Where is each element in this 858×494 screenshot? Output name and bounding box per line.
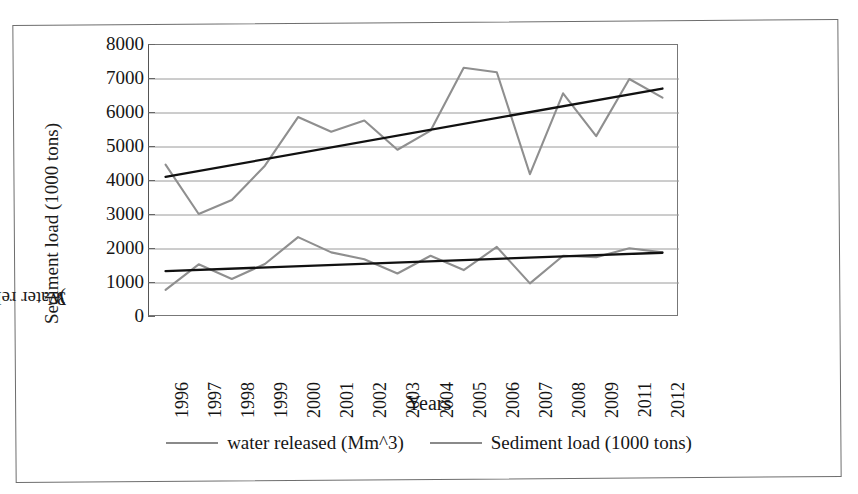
- legend-swatch-sediment-load: [430, 442, 482, 444]
- y-axis-tick-label: 6000: [78, 102, 144, 121]
- y-axis-tick-mark: [148, 248, 155, 249]
- y-axis-tick-mark: [148, 78, 155, 79]
- chart-page: Sediment load (1000 tons) Water released…: [0, 0, 858, 494]
- y-axis-title: Sediment load (1000 tons) Water released…: [22, 28, 78, 328]
- x-axis-title: Years: [0, 392, 858, 415]
- y-axis-tick-label: 1000: [78, 272, 144, 291]
- y-axis-tick-mark: [148, 112, 155, 113]
- legend-item-water-released[interactable]: water released (Mm^3): [166, 432, 404, 454]
- chart-canvas: [149, 45, 679, 317]
- legend-label-water-released: water released (Mm^3): [227, 432, 404, 454]
- y-axis-title-line-2-suffix: ): [60, 287, 66, 309]
- y-axis-tick-mark: [148, 146, 155, 147]
- y-axis-tick-label: 8000: [78, 34, 144, 53]
- y-axis-tick-label: 2000: [78, 238, 144, 257]
- y-axis-tick-label: 4000: [78, 170, 144, 189]
- plot-area: [148, 44, 678, 316]
- chart-legend: water released (Mm^3) Sediment load (100…: [0, 432, 858, 454]
- x-axis-tick-labels: 1996199719981999200020012002200320042005…: [148, 320, 678, 390]
- series-line-sediment-load: [166, 237, 663, 290]
- y-axis-tick-mark: [148, 44, 155, 45]
- y-axis-tick-label: 5000: [78, 136, 144, 155]
- y-axis-tick-mark: [148, 316, 155, 317]
- trendline-water-released: [166, 89, 663, 177]
- legend-item-sediment-load[interactable]: Sediment load (1000 tons): [430, 432, 692, 454]
- legend-swatch-water-released: [166, 442, 218, 444]
- series-line-water-released: [166, 68, 663, 214]
- y-axis-tick-mark: [148, 180, 155, 181]
- legend-label-sediment-load: Sediment load (1000 tons): [491, 432, 692, 454]
- y-axis-tick-label: 3000: [78, 204, 144, 223]
- plot-frame: [148, 44, 678, 316]
- chart-figure: Sediment load (1000 tons) Water released…: [0, 0, 858, 494]
- y-axis-tick-labels: 800070006000500040003000200010000: [78, 0, 144, 494]
- y-axis-tick-mark: [148, 282, 155, 283]
- y-axis-tick-mark: [148, 214, 155, 215]
- trendline-sediment-load: [166, 253, 663, 271]
- y-axis-tick-label: 7000: [78, 68, 144, 87]
- y-axis-tick-label: 0: [78, 306, 144, 325]
